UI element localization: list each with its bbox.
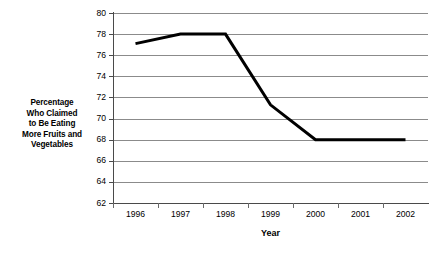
line-chart: Percentage Who Claimed to Be Eating More… [0,0,443,254]
series-layer [0,0,443,254]
data-line-series-1 [136,34,406,140]
x-axis-title: Year [113,228,428,238]
